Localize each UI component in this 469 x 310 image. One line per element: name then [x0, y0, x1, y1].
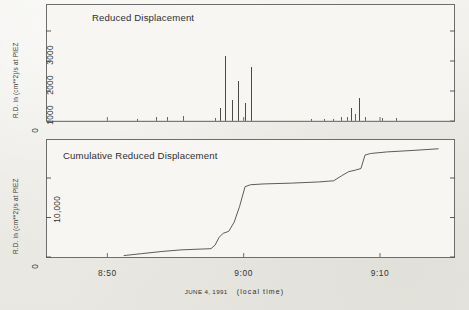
y-tick-label: 10,000: [53, 196, 62, 223]
y-tick-label: 3000: [46, 45, 55, 64]
x-tick-label: 8:50: [98, 268, 117, 278]
panel-title-bottom: Cumulative Reduced Displacement: [63, 150, 218, 161]
caption-timezone: (local time): [237, 288, 284, 295]
y-tick-label: 2000: [46, 75, 55, 94]
y-tick-label: 1000: [46, 105, 55, 124]
x-axis-caption: JUNE 4, 1991 (local time): [0, 288, 469, 295]
y-tick-label: 0: [31, 264, 40, 269]
panel-title-top: Reduced Displacement: [92, 12, 194, 23]
y-axis-label-top: R.D. in (cm**2)/s at PIEZ: [12, 42, 19, 118]
caption-date: JUNE 4, 1991: [185, 288, 228, 295]
y-tick-label: 0: [31, 128, 40, 133]
y-axis-label-bottom: R.D. in (cm**2)/s at PIEZ: [12, 178, 19, 254]
x-tick-label: 9:10: [371, 268, 390, 278]
x-tick-label: 9:00: [234, 268, 253, 278]
